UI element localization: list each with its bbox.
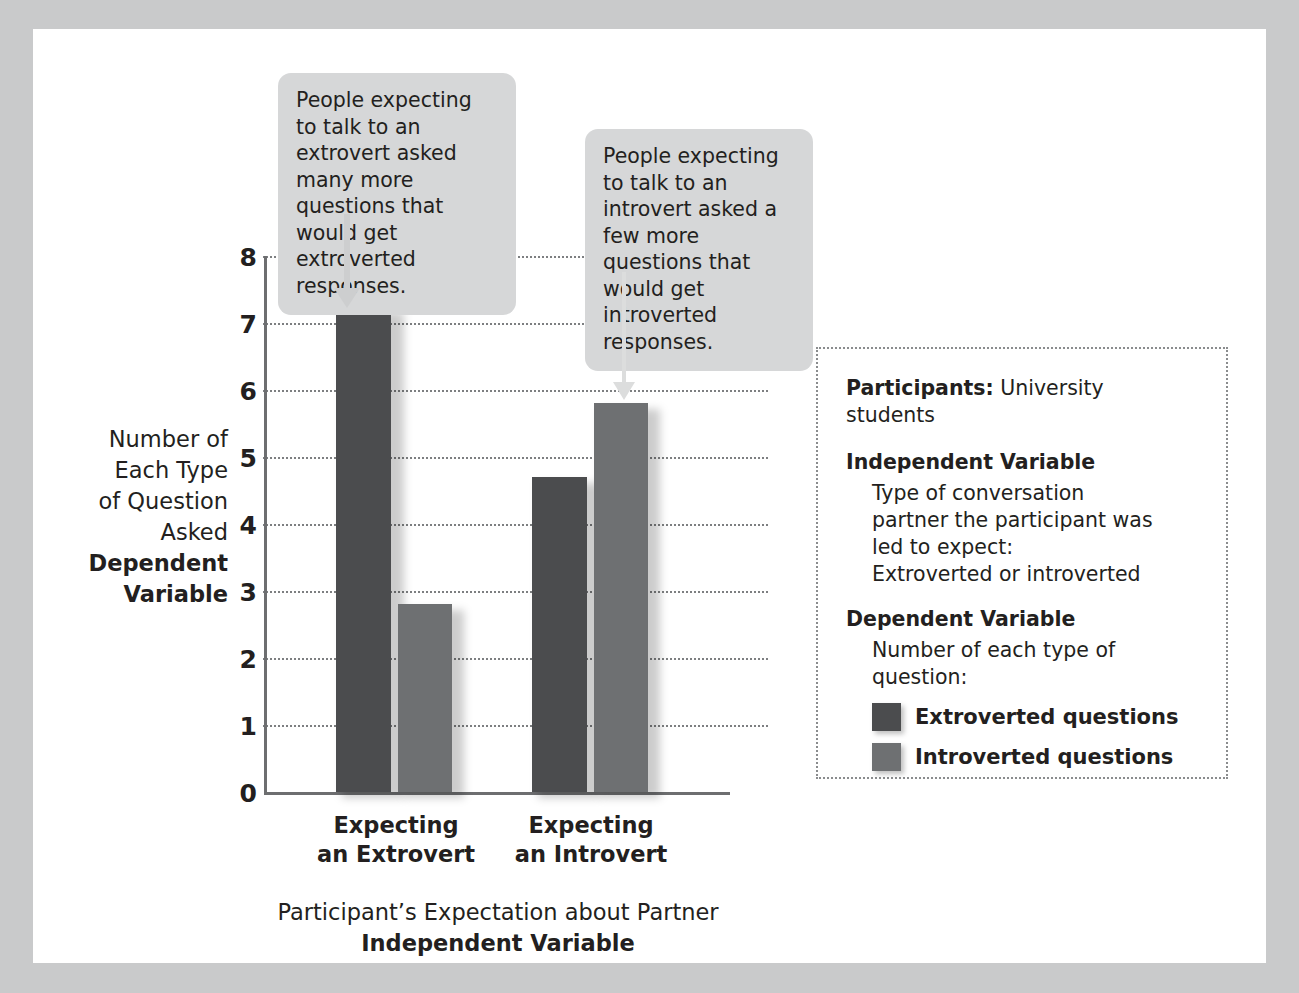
x-axis-title-regular: Participant’s Expectation about Partner: [277, 899, 718, 925]
arrow-shaft: [344, 214, 350, 290]
x-category-expecting-introvert: Expecting an Introvert: [486, 811, 696, 869]
arrow-head: [334, 288, 360, 308]
independent-variable-text: Type of conversation partner the partici…: [872, 480, 1198, 588]
dependent-variable-text: Number of each type of question:: [872, 637, 1198, 691]
x-category-expecting-extrovert: Expecting an Extrovert: [291, 811, 501, 869]
y-tick-3: 3: [221, 580, 257, 605]
legend-label-introverted: Introverted questions: [915, 744, 1173, 771]
arrow-head: [613, 382, 635, 400]
x-axis-title: Participant’s Expectation about Partner …: [218, 897, 778, 959]
legend-item-extroverted: Extroverted questions: [872, 703, 1198, 731]
bar-introverted-expecting-introvert: [594, 403, 648, 792]
arrow-down-icon-introvert: [622, 272, 626, 400]
y-tick-8: 8: [221, 245, 257, 270]
page-frame: Number of Each Type of Question Asked De…: [0, 0, 1299, 993]
callout-extrovert: People expecting to talk to an extrovert…: [278, 73, 516, 315]
bar-extroverted-expecting-extrovert: [336, 306, 391, 792]
y-tick-4: 4: [221, 513, 257, 538]
participants-label: Participants:: [846, 376, 994, 400]
y-axis-title-bold: Dependent Variable: [89, 550, 228, 607]
x-axis-line: [264, 792, 730, 795]
legend-swatch-extroverted: [872, 703, 901, 731]
legend-label-extroverted: Extroverted questions: [915, 704, 1178, 731]
y-axis-line: [264, 256, 267, 794]
x-axis-title-bold: Independent Variable: [361, 930, 635, 956]
arrow-shaft: [622, 272, 626, 382]
y-axis-title: Number of Each Type of Question Asked De…: [53, 424, 228, 610]
y-axis-title-regular: Number of Each Type of Question Asked: [99, 426, 228, 545]
y-tick-7: 7: [221, 312, 257, 337]
bar-extroverted-expecting-introvert: [532, 477, 587, 792]
legend-swatch-introverted: [872, 743, 901, 771]
y-tick-1: 1: [221, 714, 257, 739]
chart-canvas: Number of Each Type of Question Asked De…: [33, 29, 1266, 963]
legend-item-introverted: Introverted questions: [872, 743, 1198, 771]
participants-line: Participants: University students: [846, 375, 1198, 429]
independent-variable-heading: Independent Variable: [846, 449, 1198, 476]
y-tick-0: 0: [221, 781, 257, 806]
dependent-variable-heading: Dependent Variable: [846, 606, 1198, 633]
bar-introverted-expecting-extrovert: [398, 604, 452, 792]
y-tick-5: 5: [221, 446, 257, 471]
y-tick-6: 6: [221, 379, 257, 404]
arrow-down-icon-extrovert: [344, 214, 350, 308]
study-info-box: Participants: University students Indepe…: [816, 347, 1228, 779]
callout-introvert: People expecting to talk to an introvert…: [585, 129, 813, 371]
y-tick-2: 2: [221, 647, 257, 672]
